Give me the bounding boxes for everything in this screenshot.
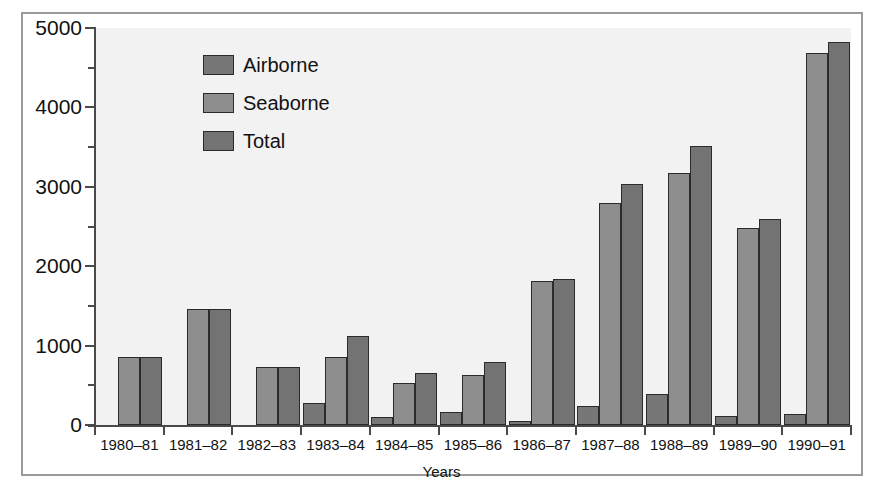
- y-tick-minor: [88, 146, 95, 148]
- x-tick: [781, 427, 783, 435]
- legend-swatch-airborne: [203, 55, 234, 75]
- x-tick-label: 1983–84: [301, 437, 370, 452]
- x-tick-label: 1989–90: [714, 437, 783, 452]
- x-tick: [713, 427, 715, 435]
- y-tick-label: 3000: [10, 176, 82, 198]
- bar: [440, 412, 462, 425]
- bar: [393, 383, 415, 425]
- bar: [784, 414, 806, 425]
- x-axis-title: Years: [0, 463, 883, 480]
- chart-figure: 010002000300040005000 1980–811981–821982…: [0, 0, 883, 499]
- x-tick-label: 1988–89: [645, 437, 714, 452]
- bar: [415, 373, 437, 425]
- x-axis-line: [88, 425, 852, 427]
- x-tick: [575, 427, 577, 435]
- y-tick-major: [85, 424, 95, 426]
- x-tick-label: 1986–87: [507, 437, 576, 452]
- x-tick: [94, 427, 96, 435]
- y-tick-minor: [88, 67, 95, 69]
- bar: [737, 228, 759, 425]
- y-tick-label-text: 5000: [20, 17, 82, 38]
- x-tick: [644, 427, 646, 435]
- x-tick: [369, 427, 371, 435]
- legend-swatch-seaborne: [203, 93, 234, 113]
- legend-label-total: Total: [243, 131, 285, 151]
- legend-label-airborne: Airborne: [243, 55, 319, 75]
- x-tick-label: 1980–81: [95, 437, 164, 452]
- x-tick-label: 1981–82: [164, 437, 233, 452]
- bar: [690, 146, 712, 425]
- bar: [599, 203, 621, 425]
- bar: [715, 416, 737, 425]
- legend-item-seaborne: Seaborne: [203, 88, 373, 118]
- y-tick-label: 1000: [10, 335, 82, 357]
- x-tick: [231, 427, 233, 435]
- bar: [118, 357, 140, 425]
- y-tick-major: [85, 265, 95, 267]
- bar: [553, 279, 575, 425]
- bar: [577, 406, 599, 425]
- bar: [256, 367, 278, 425]
- bar: [646, 394, 668, 425]
- bar: [462, 375, 484, 425]
- bar: [759, 219, 781, 425]
- bar: [509, 421, 531, 425]
- y-tick-label: 0: [10, 414, 82, 436]
- bar: [371, 417, 393, 425]
- bar: [828, 42, 850, 426]
- chart-legend: Airborne Seaborne Total: [203, 50, 373, 164]
- bar: [187, 309, 209, 425]
- x-tick: [850, 427, 852, 435]
- x-tick-label: 1990–91: [782, 437, 851, 452]
- legend-item-total: Total: [203, 126, 373, 156]
- x-tick-label: 1982–83: [232, 437, 301, 452]
- y-tick-major: [85, 27, 95, 29]
- bar: [806, 53, 828, 425]
- bar: [325, 357, 347, 425]
- bar: [278, 367, 300, 425]
- legend-swatch-total: [203, 131, 234, 151]
- bar: [668, 173, 690, 425]
- y-tick-label-text: 2000: [20, 255, 82, 276]
- y-tick-minor: [88, 226, 95, 228]
- y-tick-label-text: 4000: [20, 96, 82, 117]
- y-tick-label-text: 3000: [20, 176, 82, 197]
- legend-label-seaborne: Seaborne: [243, 93, 330, 113]
- x-tick-label: 1985–86: [439, 437, 508, 452]
- y-tick-label: 4000: [10, 96, 82, 118]
- y-tick-label-text: 0: [20, 414, 82, 435]
- bar: [621, 184, 643, 425]
- x-tick-label: 1984–85: [370, 437, 439, 452]
- x-tick: [438, 427, 440, 435]
- legend-item-airborne: Airborne: [203, 50, 373, 80]
- x-tick: [506, 427, 508, 435]
- x-tick: [300, 427, 302, 435]
- y-tick-major: [85, 345, 95, 347]
- y-tick-minor: [88, 305, 95, 307]
- bar: [303, 403, 325, 425]
- x-tick-label: 1987–88: [576, 437, 645, 452]
- y-tick-major: [85, 106, 95, 108]
- bar: [140, 357, 162, 425]
- bar: [209, 309, 231, 425]
- y-tick-label: 2000: [10, 255, 82, 277]
- bar: [347, 336, 369, 425]
- y-tick-major: [85, 186, 95, 188]
- y-tick-label: 5000: [10, 17, 82, 39]
- bar: [484, 362, 506, 425]
- bar: [531, 281, 553, 425]
- x-tick: [163, 427, 165, 435]
- y-tick-label-text: 1000: [20, 335, 82, 356]
- y-tick-minor: [88, 384, 95, 386]
